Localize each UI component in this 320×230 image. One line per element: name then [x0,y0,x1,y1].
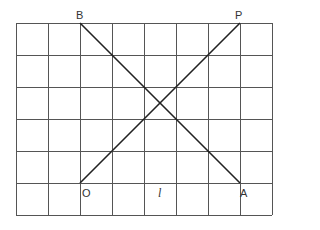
diagonal-segments [80,23,240,183]
label-B: B [76,10,83,21]
label-l: l [158,187,161,199]
label-O: O [82,188,91,199]
label-P: P [235,10,242,21]
label-A: A [240,188,247,199]
